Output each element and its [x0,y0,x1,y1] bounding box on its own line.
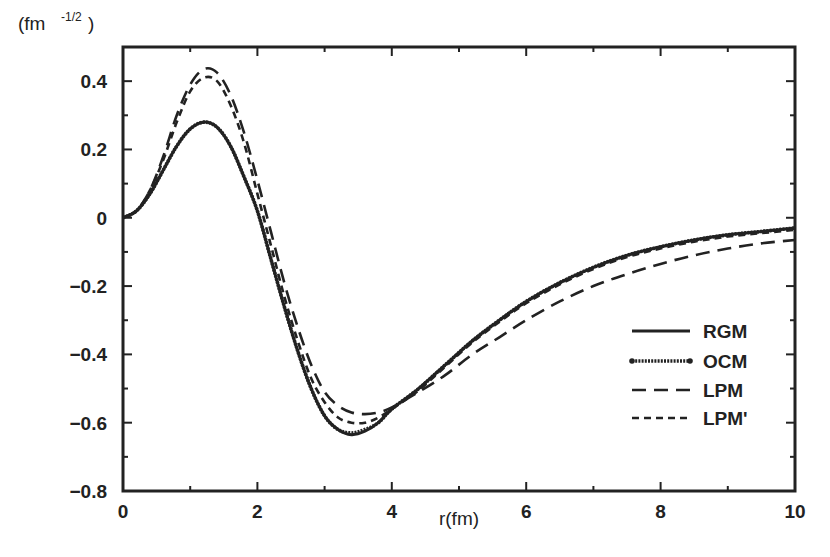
legend-label: LPM [703,380,743,401]
series-ocm-line [123,122,795,433]
y-tick-label: −0.6 [69,413,107,434]
y-axis-title-close: ) [88,13,94,34]
x-axis-ticks: 0246810 [118,47,806,522]
legend: RGMOCMLPMLPM' [629,321,747,429]
legend-marker-end [687,358,693,364]
series-layer [123,68,795,434]
legend-label: LPM' [703,408,748,429]
y-tick-label: 0 [96,208,107,229]
y-axis-title-exponent: -1/2 [61,10,82,24]
x-axis-title: r(fm) [439,508,479,529]
y-tick-label: −0.2 [69,276,107,297]
y-axis-title: (fm -1/2 ) [18,10,94,34]
plot-border [123,47,795,491]
y-tick-label: 0.2 [81,139,107,160]
legend-marker-start [629,358,635,364]
x-tick-label: 2 [252,501,263,522]
series-rgm-line [123,122,795,435]
y-axis-title-base: (fm [18,13,45,34]
y-tick-label: 0.4 [81,71,108,92]
x-tick-label: 10 [784,501,805,522]
series-lpm-line [123,77,795,423]
x-tick-label: 6 [521,501,532,522]
y-tick-label: −0.8 [69,481,107,502]
x-tick-label: 4 [387,501,398,522]
y-tick-label: −0.4 [69,344,107,365]
x-tick-label: 0 [118,501,129,522]
plot-frame [123,47,795,491]
x-tick-label: 8 [655,501,666,522]
legend-label: OCM [703,351,747,372]
line-chart: (fm -1/2 ) 0246810 0.40.20−0.2−0.4−0.6−0… [0,0,830,557]
legend-label: RGM [703,321,747,342]
